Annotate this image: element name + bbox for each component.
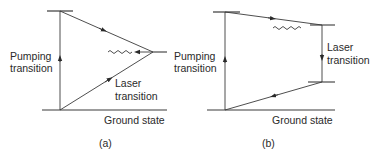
a-pumping-label-line1: Pumping: [10, 50, 51, 62]
b-pumping-label-line1: Pumping: [174, 50, 215, 62]
b-laser-label-line1: Laser: [327, 41, 353, 53]
b-decay-line: [225, 12, 322, 25]
b-laser-label-line2: transition: [327, 54, 370, 66]
b-pumping-label-line2: transition: [174, 62, 217, 74]
a-decay-arrow-icon: [99, 28, 104, 30]
b-photon-wave-icon: [273, 27, 301, 30]
diagram-b: [207, 12, 335, 110]
a-pumping-label-line2: transition: [10, 62, 53, 74]
a-photon-wave-icon: [108, 51, 132, 54]
b-ground-state-label: Ground state: [272, 114, 333, 126]
a-laser-arrow-icon: [105, 79, 110, 82]
a-ground-state-label: Ground state: [104, 114, 165, 126]
a-caption: (a): [99, 137, 112, 149]
a-decay-line: [60, 11, 153, 52]
a-laser-label-line1: Laser: [115, 77, 141, 89]
b-caption: (b): [262, 137, 275, 149]
a-laser-label-line2: transition: [115, 90, 158, 102]
laser-level-diagrams: [0, 0, 381, 158]
